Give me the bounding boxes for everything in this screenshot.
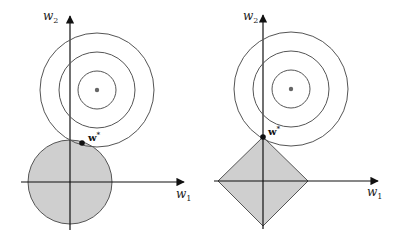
optimum-label: w* [87, 130, 101, 143]
optimum-point [260, 134, 266, 140]
regularization-diagram: w* w2 w1 w* w2 w1 [0, 0, 403, 240]
left-panel-l2: w* w2 w1 [21, 9, 191, 230]
contour-center-dot [95, 88, 99, 92]
x-axis-label: w1 [176, 187, 191, 203]
optimum-label: w* [267, 124, 281, 137]
optimum-point [79, 140, 85, 146]
contour-center-dot [289, 87, 293, 91]
x-axis-label: w1 [367, 185, 382, 201]
right-panel-l1: w* w2 w1 [214, 9, 382, 229]
y-axis-label: w2 [43, 9, 58, 25]
y-axis-label: w2 [243, 9, 258, 25]
